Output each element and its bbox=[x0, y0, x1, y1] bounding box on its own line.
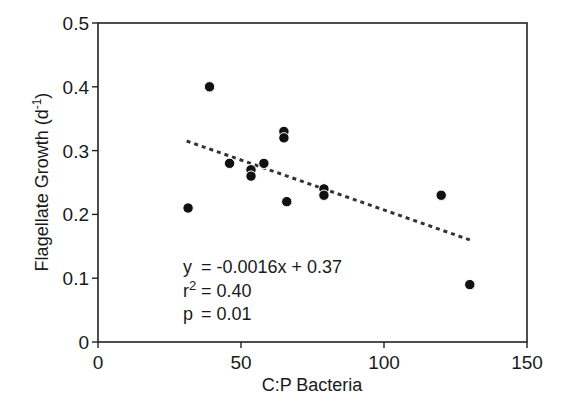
p-value-value: = 0.01 bbox=[201, 304, 252, 324]
data-point bbox=[204, 82, 214, 92]
p-value-label: p bbox=[183, 304, 193, 324]
x-tick-label: 50 bbox=[230, 352, 251, 373]
plot-frame bbox=[98, 23, 527, 342]
data-point bbox=[279, 133, 289, 143]
y-axis-ticks: 00.10.20.30.40.5 bbox=[63, 13, 98, 353]
regression-stats: y = -0.0016x + 0.37 r2 = 0.40 p = 0.01 bbox=[183, 257, 342, 324]
y-tick-label: 0 bbox=[78, 332, 89, 353]
data-point bbox=[282, 196, 292, 206]
data-point bbox=[246, 171, 256, 181]
x-axis-title: C:P Bacteria bbox=[262, 375, 364, 395]
y-tick-label: 0.4 bbox=[63, 77, 90, 98]
scatter-chart: 00.10.20.30.40.5 050100150 Flagellate Gr… bbox=[0, 0, 562, 406]
y-tick-label: 0.1 bbox=[63, 268, 89, 289]
x-tick-label: 0 bbox=[93, 352, 104, 373]
y-tick-label: 0.5 bbox=[63, 13, 89, 34]
r-squared-label: r2 bbox=[183, 278, 196, 301]
data-point bbox=[224, 158, 234, 168]
x-tick-label: 100 bbox=[368, 352, 400, 373]
data-point bbox=[183, 203, 193, 213]
x-tick-label: 150 bbox=[511, 352, 543, 373]
data-point bbox=[319, 190, 329, 200]
y-axis-title: Flagellate Growth (d-1) bbox=[30, 93, 52, 272]
data-point bbox=[259, 158, 269, 168]
equation-label: y bbox=[183, 257, 192, 277]
data-point bbox=[436, 190, 446, 200]
x-axis-ticks: 050100150 bbox=[93, 342, 543, 373]
y-tick-label: 0.2 bbox=[63, 204, 89, 225]
r-squared-value: = 0.40 bbox=[201, 281, 252, 301]
data-point bbox=[465, 279, 475, 289]
y-tick-label: 0.3 bbox=[63, 141, 89, 162]
equation-value: = -0.0016x + 0.37 bbox=[201, 257, 342, 277]
